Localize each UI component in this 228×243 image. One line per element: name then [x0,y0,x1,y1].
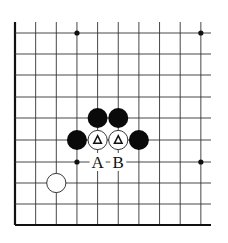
white-stone-icon [88,130,107,149]
star-point-icon [198,30,203,35]
white-stone-icon [47,173,66,192]
star-point-icon [198,159,203,164]
star-point-icon [74,159,79,164]
labels-layer: AB [90,153,127,172]
star-point-icon [74,30,79,35]
point-label-a: A [91,153,104,172]
point-label-b: B [113,153,124,172]
go-board: AB [0,0,228,243]
black-stone-icon [88,108,108,128]
black-stone-icon [67,130,87,150]
black-stone-icon [129,130,149,150]
black-stone-icon [108,108,128,128]
white-stone-icon [109,130,128,149]
